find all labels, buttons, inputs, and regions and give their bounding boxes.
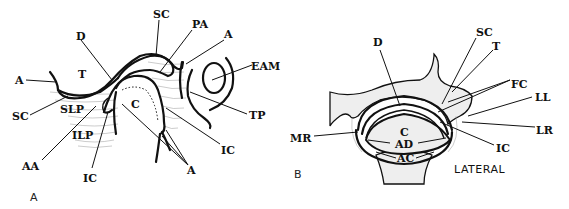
label-a-slp: SLP bbox=[60, 103, 84, 116]
label-b-lr: LR bbox=[536, 124, 554, 137]
label-a-sc-top: SC bbox=[153, 8, 170, 21]
label-b-mr: MR bbox=[290, 132, 312, 145]
label-b-ic: IC bbox=[496, 142, 510, 155]
label-b-ad: AD bbox=[394, 138, 414, 151]
label-a-t: T bbox=[78, 68, 87, 81]
tmj-anatomy-diagram: D SC PA A EAM A T SC SLP ILP C TP IC AA … bbox=[0, 0, 569, 209]
panel-b-label: B bbox=[294, 168, 302, 181]
label-b-ll: LL bbox=[535, 91, 551, 104]
panel-a-sagittal-view bbox=[26, 20, 252, 168]
label-b-fc: FC bbox=[511, 78, 528, 91]
panel-a-label: A bbox=[30, 191, 38, 204]
orientation-label-lateral: LATERAL bbox=[454, 163, 505, 176]
label-a-d: D bbox=[76, 30, 86, 43]
label-a-aa: AA bbox=[21, 160, 40, 173]
label-a-ilp: ILP bbox=[72, 129, 93, 142]
label-a-a-top: A bbox=[223, 28, 233, 41]
label-a-tp: TP bbox=[249, 109, 265, 122]
label-a-a-left: A bbox=[14, 74, 24, 87]
label-b-ac: AC bbox=[396, 152, 415, 165]
label-a-sc-left: SC bbox=[12, 110, 29, 123]
label-a-c: C bbox=[131, 98, 140, 111]
label-b-t: T bbox=[492, 40, 501, 53]
label-a-ic-right: IC bbox=[221, 144, 235, 157]
label-b-d: D bbox=[373, 36, 383, 49]
label-a-a-bottom: A bbox=[186, 164, 196, 177]
label-a-ic-bottom: IC bbox=[83, 172, 97, 185]
label-a-pa: PA bbox=[192, 18, 208, 31]
label-a-eam: EAM bbox=[251, 60, 280, 73]
label-b-sc: SC bbox=[476, 26, 493, 39]
